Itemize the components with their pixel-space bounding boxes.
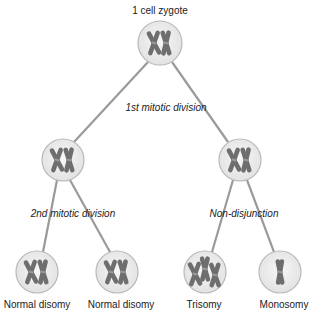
normal-disomy-2-label: Normal disomy xyxy=(88,299,155,310)
cell-trisomy xyxy=(184,251,226,293)
cell-mid-right xyxy=(219,139,261,181)
cell-normal-disomy-1 xyxy=(16,251,58,293)
cell-normal-disomy-2 xyxy=(96,251,138,293)
normal-disomy-1-label: Normal disomy xyxy=(4,299,71,310)
first-division-label: 1st mitotic division xyxy=(125,102,207,113)
zygote-label: 1 cell zygote xyxy=(132,5,188,16)
monosomy-label: Monosomy xyxy=(260,299,309,310)
second-division-label: 2nd mitotic division xyxy=(30,208,116,219)
cell-zygote xyxy=(138,21,182,65)
cell-mid-left xyxy=(42,139,84,181)
nondisjunction-label: Non-disjunction xyxy=(210,208,279,219)
cell-monosomy xyxy=(259,251,301,293)
nondisjunction-diagram: 1 cell zygote 1st mitotic division 2nd m… xyxy=(0,0,313,314)
trisomy-label: Trisomy xyxy=(186,299,221,310)
